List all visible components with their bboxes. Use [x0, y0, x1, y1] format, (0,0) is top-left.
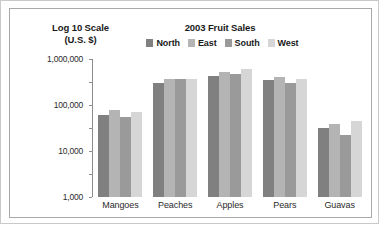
bar-guavas-south[interactable] — [340, 135, 351, 197]
legend-swatch-icon — [225, 39, 232, 47]
bar-guavas-east[interactable] — [329, 124, 340, 197]
bar-apples-south[interactable] — [230, 74, 241, 197]
legend-item-west[interactable]: West — [268, 38, 299, 48]
y-tick-label: 1,000 — [63, 192, 83, 202]
legend-swatch-icon — [146, 39, 153, 47]
legend-label: East — [198, 38, 217, 48]
bar-pears-north[interactable] — [263, 80, 274, 197]
chart-title: 2003 Fruit Sales — [130, 22, 310, 33]
legend-label: North — [156, 38, 180, 48]
bar-peaches-west[interactable] — [186, 79, 197, 197]
y-tick-label: 10,000 — [58, 146, 83, 156]
bars-layer — [93, 59, 367, 197]
bar-mangoes-south[interactable] — [120, 117, 131, 197]
bar-pears-east[interactable] — [274, 77, 285, 197]
y-tick-mark: 1 — [89, 197, 92, 198]
y-tick-label: 100,000 — [54, 100, 83, 110]
bar-pears-west[interactable] — [296, 79, 307, 197]
bar-pears-south[interactable] — [285, 83, 296, 197]
y-tick-label: 1,000,000 — [47, 54, 83, 64]
bar-peaches-north[interactable] — [153, 83, 164, 197]
bar-guavas-west[interactable] — [351, 121, 362, 197]
y-tick-mark: 100 — [89, 151, 92, 152]
bar-mangoes-west[interactable] — [131, 112, 142, 197]
x-axis-label-guavas: Guavas — [312, 200, 367, 210]
y-tick-mark: 1,000,000 — [89, 59, 92, 60]
x-axis-label-pears: Pears — [257, 200, 312, 210]
bar-group-pears — [257, 59, 312, 197]
y-axis-label-line2: (U.S. $) — [28, 34, 133, 46]
image-border: Log 10 Scale (U.S. $) 2003 Fruit Sales N… — [0, 0, 379, 224]
bar-guavas-north[interactable] — [318, 128, 329, 197]
y-tick-mark: 10,000 — [89, 105, 92, 106]
chart-container: Log 10 Scale (U.S. $) 2003 Fruit Sales N… — [9, 8, 372, 218]
legend-label: West — [278, 38, 299, 48]
y-axis-label: Log 10 Scale (U.S. $) — [28, 22, 133, 46]
x-axis-labels: MangoesPeachesApplesPearsGuavas — [93, 200, 367, 210]
legend-item-east[interactable]: East — [188, 38, 217, 48]
bar-apples-north[interactable] — [208, 76, 219, 197]
y-tick-mark: 10 — [89, 174, 92, 175]
bar-mangoes-east[interactable] — [109, 110, 120, 197]
bar-apples-east[interactable] — [219, 72, 230, 197]
y-axis-label-line1: Log 10 Scale — [52, 22, 109, 33]
legend-swatch-icon — [188, 39, 195, 47]
chart-legend: NorthEastSouthWest — [130, 38, 315, 48]
bar-group-peaches — [148, 59, 203, 197]
bar-mangoes-north[interactable] — [98, 115, 109, 197]
bar-apples-west[interactable] — [241, 69, 252, 197]
x-axis-label-apples: Apples — [203, 200, 258, 210]
legend-swatch-icon — [268, 39, 275, 47]
plot-area: 1,000,000100,00010,0001,000100101 — [92, 59, 367, 197]
bar-peaches-east[interactable] — [164, 79, 175, 197]
y-tick-mark: 100,000 — [89, 82, 92, 83]
legend-item-north[interactable]: North — [146, 38, 180, 48]
x-axis-label-mangoes: Mangoes — [93, 200, 148, 210]
y-tick-mark: 1,000 — [89, 128, 92, 129]
legend-item-south[interactable]: South — [225, 38, 260, 48]
legend-label: South — [235, 38, 260, 48]
bar-peaches-south[interactable] — [175, 79, 186, 197]
bar-group-apples — [203, 59, 258, 197]
bar-group-guavas — [312, 59, 367, 197]
x-axis-label-peaches: Peaches — [148, 200, 203, 210]
bar-group-mangoes — [93, 59, 148, 197]
